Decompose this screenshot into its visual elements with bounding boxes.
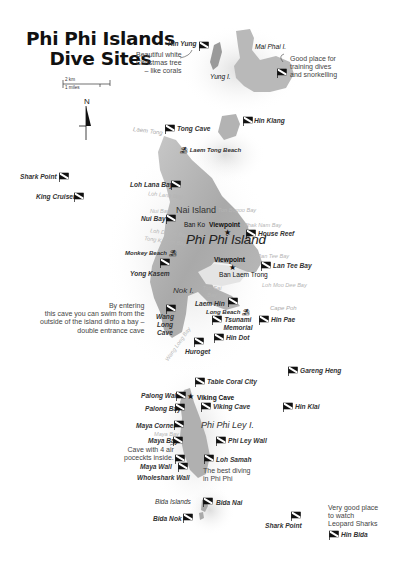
dive-site-loh-lana-bay[interactable]: Loh Lana Bay [130,181,173,189]
bay-ran-tee: Ran Tee Bay [257,252,289,260]
dive-site-bida-nok[interactable]: Bida Nok [153,515,182,523]
dive-site-huroget[interactable]: Huroget [185,348,210,356]
dive-flag-icon [283,402,293,412]
dive-site-hin-bida[interactable]: Hin Bida [341,531,368,539]
dive-flag-icon [175,403,185,413]
dive-flag-icon [329,530,339,540]
dive-flag-icon [216,436,226,446]
dive-flag-icon [243,116,253,126]
bay-ton-bogoo: Ton Bogoo Bay [218,206,256,214]
dive-site-king-cruiser[interactable]: King Cruiser [36,193,76,201]
island-label-yung: Yung I. [210,73,231,81]
note-hin-yung: Beautiful white Christmas tree – like co… [136,51,182,76]
dive-site-hin-dot[interactable]: Hin Dot [226,334,249,342]
dive-site-shark-point-north[interactable]: Shark Point [20,173,57,181]
dive-flag-icon [201,402,211,412]
scale-km-label: 2 km [65,77,75,82]
north-arrow-icon [78,106,98,148]
dive-flag-icon [261,261,271,271]
dive-site-tong-cave[interactable]: Tong Cave [177,125,210,133]
bay-ton-sai: Ton Sai Bay [201,285,223,299]
dive-flag-icon [171,180,181,190]
island-label-nok: Nok I. [173,287,194,295]
dive-site-wholeshark-wall[interactable]: Wholeshark Wall [137,474,190,482]
dive-site-hin-klai[interactable]: Hin Klai [295,403,320,411]
dive-flag-icon [212,315,222,325]
place-viking-cave: Viking Cave [197,394,234,402]
dive-flag-icon [204,454,214,464]
dive-flag-icon [178,462,188,472]
dive-flag-icon [195,377,205,387]
dive-flag-icon [74,192,84,202]
dive-flag-icon [160,258,170,268]
map-background [0,0,397,564]
dive-flag-icon [203,497,213,507]
north-arrow: N [78,97,98,139]
island-label-phi-phi: Phi Phi Island [186,236,266,244]
scale-miles-label: 1 miles [65,85,80,90]
place-ban-ko: Ban Ko [184,221,205,229]
dive-flag-icon [183,513,193,523]
dive-flag-icon [59,172,69,182]
dive-flag-icon [194,337,204,347]
place-ban-laem-trong: Ban Laem Trong [219,271,268,279]
bay-loh-moo-dee: Loh Moo Dee Bay [262,281,307,289]
title-line-1: Phi Phi Islands [26,29,175,49]
dive-flag-icon [199,41,209,51]
note-maya-bay: Cave with 4 air poceckts inside. [124,446,174,462]
dive-site-laem-hin[interactable]: Laem Hin [195,300,225,308]
dive-flag-icon [166,214,176,224]
dive-flag-icon [173,436,183,446]
dive-site-yong-kasem[interactable]: Yong Kasem [130,270,170,278]
viewpoint-star-icon: ★ [187,393,194,401]
dive-flag-icon [277,68,287,78]
north-label: N [84,97,90,106]
note-hin-bida: Very good place to watch Leopard Sharks [328,504,378,529]
beach-laem-tong: ⛱ Laem Tong Beach [180,146,241,154]
dive-site-maya-corner[interactable]: Maya Corner [136,422,176,430]
dive-flag-icon [288,366,298,376]
dive-site-hin-klang[interactable]: Hin Klang [254,117,285,125]
island-label-bida: Bida Islands [155,498,191,506]
dive-site-lan-tee-bay[interactable]: Lan Tee Bay [273,262,312,270]
note-wang-long: By entering this cave you can swim from … [40,302,144,335]
dive-site-hin-yung[interactable]: Hin Yung [168,40,197,48]
dive-flag-icon [291,511,301,521]
dive-flag-icon [176,391,186,401]
island-label-nai: Nai Island [176,206,216,214]
dive-site-nui-bay[interactable]: Nui Bay [141,215,166,223]
dive-site-tsunami-memorial[interactable]: Tsunami Memorial [223,316,253,332]
dive-site-shark-point-south[interactable]: Shark Point [265,522,302,530]
scale-bar: 2 km 1 miles [62,78,112,90]
dive-site-maya-wall[interactable]: Maya Wall [140,463,172,471]
dive-flag-icon [165,124,175,134]
dive-flag-icon [259,315,269,325]
dive-flag-icon [228,297,238,307]
place-cape-poh: Cape Poh [270,304,297,312]
dive-site-palong-wall[interactable]: Palong Wall [141,392,178,400]
dive-site-viking-cave[interactable]: Viking Cave [213,403,250,411]
dive-site-bida-nai[interactable]: Bida Nai [216,499,242,507]
beach-monkey: Monkey Beach ⛱ [125,249,177,257]
island-label-phi-phi-ley: Phi Phi Ley I. [201,421,254,429]
dive-site-loh-samah[interactable]: Loh Samah [216,456,252,464]
note-mai-phai: Good place for training dives and snorke… [290,55,337,80]
island-label-mai-phai: Mai Phai I. [255,43,286,51]
dive-flag-icon [214,333,224,343]
note-loh-samah: The best diving in Phi Phi [203,467,250,483]
dive-flag-icon [174,420,184,430]
dive-site-hin-pae[interactable]: Hin Pae [271,316,295,324]
dive-site-table-coral-city[interactable]: Table Coral City [207,378,257,386]
dive-site-gareng-heng[interactable]: Gareng Heng [300,367,341,375]
bay-phak-nam: Phak Nam Bay [244,221,281,229]
dive-site-wang-long-cave[interactable]: Wang Long Cave [155,313,175,338]
dive-site-phi-ley-wall[interactable]: Phi Ley Wall [228,437,267,445]
